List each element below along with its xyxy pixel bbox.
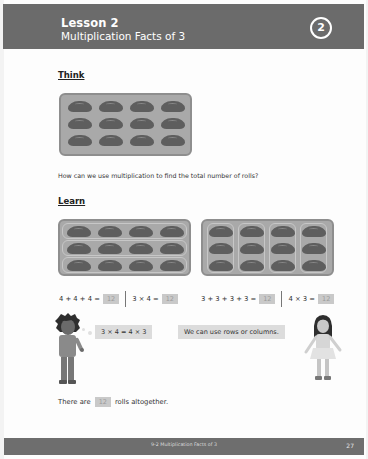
roll-icon [67,226,91,237]
roll-icon [302,243,326,254]
roll-icon [161,118,185,129]
roll-icon [130,135,154,146]
girl-speech-bubble: We can use rows or columns. [178,325,285,339]
lesson-label: Lesson 2 [61,16,119,30]
sentence-start: There are [58,398,91,406]
roll-icon [129,260,153,271]
boy-speech-bubble: 3 × 4 = 4 × 3 [95,325,152,339]
think-tray [59,93,192,156]
roll-icon [240,243,264,254]
roll-icon [161,135,185,146]
roll-icon [68,101,92,112]
answer-box: 12 [103,294,119,304]
roll-icon [98,243,122,254]
roll-icon [99,101,123,112]
lesson-title: Multiplication Facts of 3 [61,30,185,42]
roll-icon [68,118,92,129]
roll-icon [68,135,92,146]
multiplication-equation: 4 × 3 = [288,295,315,303]
roll-icon [271,243,295,254]
roll-icon [98,226,122,237]
footer-title: 9-2 Multiplication Facts of 3 [4,442,364,447]
roll-icon [99,135,123,146]
answer-box: 12 [162,294,178,304]
roll-icon [302,260,326,271]
roll-icon [129,243,153,254]
rows-tray [58,219,191,276]
learn-heading: Learn [58,196,85,206]
roll-icon [130,118,154,129]
lesson-header: Lesson 2 Multiplication Facts of 3 2 [3,4,364,49]
divider [281,291,282,307]
boy-illustration [52,312,88,386]
roll-icon [240,226,264,237]
addition-equation: 4 + 4 + 4 = [59,295,100,303]
roll-icon [129,226,153,237]
roll-icon [271,226,295,237]
roll-icon [209,226,233,237]
columns-equations: 3 + 3 + 3 + 3 = 12 4 × 3 = 12 [201,291,334,307]
answer-box: 12 [259,294,275,304]
think-heading: Think [58,70,84,80]
sentence-end: rolls altogether. [115,398,168,406]
columns-tray [201,219,334,276]
roll-icon [161,101,185,112]
roll-icon [160,226,184,237]
multiplication-equation: 3 × 4 = [132,295,159,303]
girl-illustration [303,314,343,384]
addition-equation: 3 + 3 + 3 + 3 = [201,295,256,303]
page-footer: 9-2 Multiplication Facts of 3 27 [4,438,364,455]
roll-icon [99,118,123,129]
roll-icon [240,260,264,271]
roll-icon [209,243,233,254]
answer-box: 12 [318,294,334,304]
answer-box: 12 [95,397,111,407]
roll-icon [160,243,184,254]
roll-icon [67,243,91,254]
thought-dot [88,331,92,335]
roll-icon [271,260,295,271]
roll-icon [302,226,326,237]
roll-icon [160,260,184,271]
roll-icon [98,260,122,271]
roll-icon [209,260,233,271]
think-question: How can we use multiplication to find th… [58,172,258,179]
chapter-number-badge: 2 [310,17,332,39]
roll-icon [67,260,91,271]
roll-icon [130,101,154,112]
thought-dot [82,328,85,331]
divider [125,291,126,307]
page-number: 27 [346,442,354,449]
rows-equations: 4 + 4 + 4 = 12 3 × 4 = 12 [59,291,178,307]
conclusion-sentence: There are 12 rolls altogether. [58,397,168,407]
